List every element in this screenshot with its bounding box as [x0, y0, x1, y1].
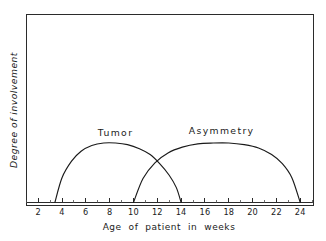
curve-tumor [55, 143, 181, 203]
curve-asymmetry [133, 143, 300, 203]
curve-labels: Tumor Asymmetry [97, 125, 255, 138]
figure-container: 2 4 6 8 10 12 14 16 18 20 22 24 Age of p… [0, 0, 326, 241]
x-tick-label-6: 6 [83, 207, 88, 217]
x-tick-label-18: 18 [223, 207, 234, 217]
x-tick-label-24: 24 [295, 207, 306, 217]
x-axis-tick-labels: 2 4 6 8 10 12 14 16 18 20 22 24 [35, 207, 305, 217]
x-tick-label-12: 12 [152, 207, 163, 217]
x-tick-label-4: 4 [59, 207, 64, 217]
x-axis-title: Age of patient in weeks [103, 222, 236, 232]
x-tick-label-16: 16 [199, 207, 210, 217]
curve-label-tumor: Tumor [97, 127, 133, 138]
data-curves [55, 143, 300, 203]
x-tick-label-8: 8 [107, 207, 112, 217]
y-axis-title: Degree of involvement [8, 52, 19, 168]
x-tick-label-22: 22 [271, 207, 282, 217]
curve-label-asymmetry: Asymmetry [189, 125, 255, 136]
x-tick-label-14: 14 [176, 207, 187, 217]
x-tick-label-2: 2 [35, 207, 40, 217]
y-axis: Degree of involvement [8, 52, 19, 168]
x-axis: 2 4 6 8 10 12 14 16 18 20 22 24 Age of p… [26, 198, 313, 233]
chart-canvas: 2 4 6 8 10 12 14 16 18 20 22 24 Age of p… [0, 0, 326, 241]
x-tick-label-20: 20 [247, 207, 258, 217]
x-tick-label-10: 10 [128, 207, 139, 217]
